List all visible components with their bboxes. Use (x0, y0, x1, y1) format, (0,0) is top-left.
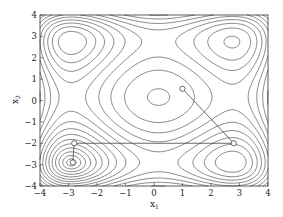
svg-text:−2: −2 (24, 138, 37, 148)
contour-figure: −4−3−2−101234−4−3−2−101234 x1 x2 (0, 0, 283, 217)
svg-text:0: 0 (151, 188, 156, 198)
axis-ticks: −4−3−2−101234−4−3−2−101234 (24, 10, 270, 198)
svg-text:0: 0 (32, 96, 37, 106)
svg-text:−2: −2 (91, 188, 104, 198)
optimization-path (70, 86, 236, 165)
svg-text:4: 4 (265, 188, 270, 198)
svg-text:1: 1 (180, 188, 185, 198)
svg-text:−3: −3 (24, 160, 37, 170)
svg-text:−3: −3 (62, 188, 75, 198)
svg-text:3: 3 (237, 188, 242, 198)
svg-text:−1: −1 (24, 117, 37, 127)
x-axis-label: x1 (150, 199, 159, 210)
svg-text:4: 4 (32, 10, 37, 20)
svg-text:−1: −1 (119, 188, 132, 198)
svg-text:1: 1 (32, 74, 37, 84)
path-point-marker (70, 160, 75, 165)
svg-text:2: 2 (32, 53, 37, 63)
svg-text:2: 2 (208, 188, 213, 198)
path-point-marker (180, 86, 185, 91)
y-axis-label: x2 (10, 95, 21, 104)
path-point-marker (72, 141, 77, 146)
path-point-marker (231, 141, 236, 146)
svg-text:3: 3 (32, 31, 37, 41)
svg-text:−4: −4 (24, 181, 37, 191)
